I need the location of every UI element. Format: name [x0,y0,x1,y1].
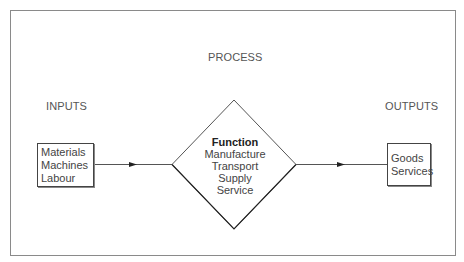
output-item: Services [391,165,430,178]
outputs-heading: OUTPUTS [385,100,438,112]
function-item: Supply [185,172,285,184]
flow-graphics [0,0,464,262]
input-item: Machines [41,159,93,172]
function-item: Service [185,184,285,196]
inputs-heading: INPUTS [46,100,87,112]
inputs-box: Materials Machines Labour [37,143,94,187]
output-item: Goods [391,152,430,165]
function-item: Transport [185,160,285,172]
input-item: Materials [41,146,93,159]
output-arrowhead-icon [337,162,345,167]
function-heading: Function [185,136,285,148]
function-text: Function Manufacture Transport Supply Se… [185,136,285,196]
function-item: Manufacture [185,148,285,160]
outputs-box: Goods Services [387,143,431,186]
input-arrowhead-icon [129,162,137,167]
input-item: Labour [41,172,93,185]
process-title: PROCESS [208,51,263,63]
